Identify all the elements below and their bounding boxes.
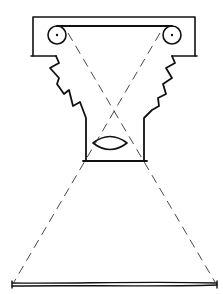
bellows-right xyxy=(144,56,175,161)
left-reel xyxy=(48,26,66,44)
reel-housing xyxy=(31,17,197,56)
projector-diagram xyxy=(0,0,223,294)
bellows-left xyxy=(50,56,86,161)
right-reel xyxy=(163,26,181,44)
projection-screen xyxy=(12,281,217,288)
projection-rays xyxy=(14,33,215,282)
